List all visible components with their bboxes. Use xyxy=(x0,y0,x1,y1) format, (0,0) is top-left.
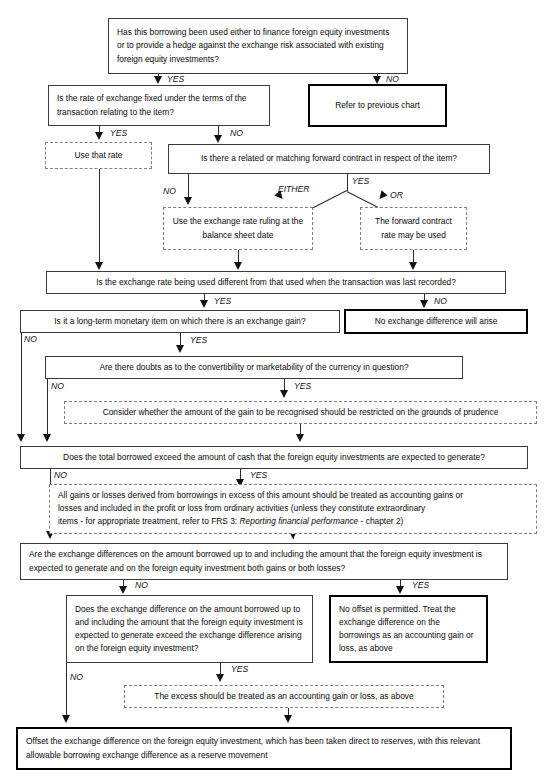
node-q-rate-different: Is the exchange rate being used differen… xyxy=(46,271,506,294)
arrowhead-yes-longterm xyxy=(176,345,184,353)
connector-no-exceed-down xyxy=(66,663,67,717)
flowchart-canvas: Has this borrowing been used either to f… xyxy=(0,0,552,784)
node-excess-treated-label: The excess should be treated as an accou… xyxy=(125,690,443,703)
node-q-rate-fixed: Is the rate of exchange fixed under the … xyxy=(48,85,270,126)
edge-label-no-top: NO xyxy=(386,74,399,84)
node-q-forward-contract: Is there a related or matching forward c… xyxy=(168,144,490,174)
edge-label-yes-total-borrowed: YES xyxy=(250,470,267,480)
arrowhead-use-that-rate-down xyxy=(95,262,103,270)
edge-label-yes-longterm: YES xyxy=(190,335,207,345)
arrowhead-no-both-gains xyxy=(119,586,127,594)
arrowhead-no-top xyxy=(373,76,381,84)
node-all-gains-losses-citation: Reporting financial performance xyxy=(240,516,359,526)
node-all-gains-losses-text: All gains or losses derived from borrowi… xyxy=(50,485,536,529)
arrowhead-no-longterm-down xyxy=(17,434,25,442)
node-offset-final: Offset the exchange difference on the fo… xyxy=(16,727,512,770)
node-use-balance-sheet-rate-label: Use the exchange rate ruling at the bala… xyxy=(164,215,312,241)
node-no-exchange-difference-label: No exchange difference will arise xyxy=(346,315,526,328)
node-forward-rate-may-be-used-label: The forward contract rate may be used xyxy=(361,215,466,241)
connector-either-branch xyxy=(311,190,347,209)
node-no-offset: No offset is permitted. Treat the exchan… xyxy=(329,595,488,663)
arrowhead-yes-top xyxy=(154,76,162,84)
edge-label-yes-exceed: YES xyxy=(231,664,248,674)
connector-no-forward-contract xyxy=(188,174,189,198)
arrowhead-no-exceed-down xyxy=(62,715,70,723)
edge-label-no-convertibility: NO xyxy=(51,381,64,391)
arrowhead-yes-convertibility xyxy=(280,390,288,398)
node-q-exceed-difference-label: Does the exchange difference on the amou… xyxy=(67,603,312,656)
arrowhead-yes-rate-fixed xyxy=(95,132,103,140)
node-no-offset-label: No offset is permitted. Treat the exchan… xyxy=(331,603,486,656)
arrowhead-no-forward-contract xyxy=(184,197,192,205)
node-q-borrowing-used: Has this borrowing been used either to f… xyxy=(108,18,408,74)
connector-no-convertibility-down xyxy=(47,379,48,436)
node-q-rate-different-label: Is the exchange rate being used differen… xyxy=(47,276,505,289)
edge-label-or: OR xyxy=(390,190,403,200)
node-excess-treated: The excess should be treated as an accou… xyxy=(124,685,444,708)
edge-label-yes-both-gains: YES xyxy=(412,580,429,590)
arrowhead-yes-rate-different xyxy=(200,300,208,308)
edge-label-no-longterm: NO xyxy=(24,334,37,344)
edge-label-yes-forward-contract: YES xyxy=(352,176,369,186)
node-q-convertibility-doubts: Are there doubts as to the convertibilit… xyxy=(45,356,463,379)
arrowhead-balance-sheet-down xyxy=(234,262,242,270)
node-q-longterm-monetary: Is it a long-term monetary item on which… xyxy=(20,310,340,333)
edge-label-no-rate-different: NO xyxy=(434,296,447,306)
edge-label-either: EITHER xyxy=(278,184,310,194)
connector-no-longterm-down xyxy=(21,333,22,436)
node-use-that-rate-label: Use that rate xyxy=(46,149,151,162)
arrowhead-or xyxy=(376,190,387,201)
node-offset-final-label: Offset the exchange difference on the fo… xyxy=(18,735,510,761)
edge-label-no-both-gains: NO xyxy=(135,580,148,590)
node-use-that-rate: Use that rate xyxy=(45,142,152,169)
node-all-gains-losses-line1: All gains or losses derived from borrowi… xyxy=(58,490,463,500)
node-q-longterm-monetary-label: Is it a long-term monetary item on which… xyxy=(21,315,339,328)
node-q-total-borrowed: Does the total borrowed exceed the amoun… xyxy=(20,446,528,469)
arrowhead-no-rate-different xyxy=(420,300,428,308)
node-q-both-gains-losses-label: Are the exchange differences on the amou… xyxy=(21,548,507,574)
node-refer-previous-chart-label: Refer to previous chart xyxy=(310,99,445,112)
edge-label-no-rate-fixed: NO xyxy=(230,128,243,138)
arrowhead-excess-down xyxy=(284,715,292,723)
node-all-gains-losses-line3c: - chapter 2) xyxy=(358,516,403,526)
edge-label-yes-top: YES xyxy=(167,74,184,84)
node-q-forward-contract-label: Is there a related or matching forward c… xyxy=(169,152,489,165)
node-consider-prudence: Consider whether the amount of the gain … xyxy=(64,401,537,424)
node-use-balance-sheet-rate: Use the exchange rate ruling at the bala… xyxy=(163,207,313,250)
arrowhead-yes-both-gains xyxy=(396,586,404,594)
node-consider-prudence-label: Consider whether the amount of the gain … xyxy=(65,406,536,419)
edge-label-yes-convertibility: YES xyxy=(294,381,311,391)
arrowhead-forward-rate-down xyxy=(409,262,417,270)
edge-label-no-forward-contract: NO xyxy=(163,186,176,196)
node-all-gains-losses: All gains or losses derived from borrowi… xyxy=(49,484,537,534)
node-no-exchange-difference: No exchange difference will arise xyxy=(344,309,528,334)
node-q-borrowing-used-label: Has this borrowing been used either to f… xyxy=(109,26,407,66)
connector-use-that-rate-down xyxy=(99,169,100,264)
arrowhead-no-rate-fixed xyxy=(214,135,222,143)
arrowhead-no-convertibility-down xyxy=(43,434,51,442)
node-q-total-borrowed-label: Does the total borrowed exceed the amoun… xyxy=(21,451,527,464)
node-refer-previous-chart: Refer to previous chart xyxy=(308,84,447,127)
arrowhead-yes-exceed xyxy=(216,674,224,682)
node-q-convertibility-doubts-label: Are there doubts as to the convertibilit… xyxy=(46,361,462,374)
node-q-rate-fixed-label: Is the rate of exchange fixed under the … xyxy=(49,92,269,118)
node-q-exceed-difference: Does the exchange difference on the amou… xyxy=(66,595,313,663)
edge-label-yes-rate-fixed: YES xyxy=(110,128,127,138)
node-forward-rate-may-be-used: The forward contract rate may be used xyxy=(360,207,467,250)
arrowhead-prudence-down xyxy=(296,434,304,442)
edge-label-no-total-borrowed: NO xyxy=(54,470,67,480)
node-all-gains-losses-line3a: items - for appropriate treatment, refer… xyxy=(58,516,240,526)
node-all-gains-losses-line2: losses and included in the profit or los… xyxy=(58,503,425,513)
connector-yes-forward-contract xyxy=(347,174,348,191)
node-q-both-gains-losses: Are the exchange differences on the amou… xyxy=(20,543,508,580)
edge-label-yes-rate-different: YES xyxy=(214,296,231,306)
edge-label-no-exceed: NO xyxy=(70,672,83,682)
